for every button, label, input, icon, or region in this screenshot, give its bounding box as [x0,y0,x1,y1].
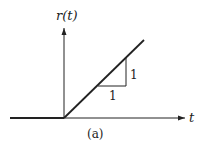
slope-rise-label: 1 [130,68,138,82]
slope-run-label: 1 [109,89,117,103]
y-axis-label: r(t) [56,8,78,23]
ramp-function-diagram: r(t) t 1 1 (a) [0,0,202,148]
x-axis-label: t [189,110,195,125]
figure-caption: (a) [87,127,104,141]
